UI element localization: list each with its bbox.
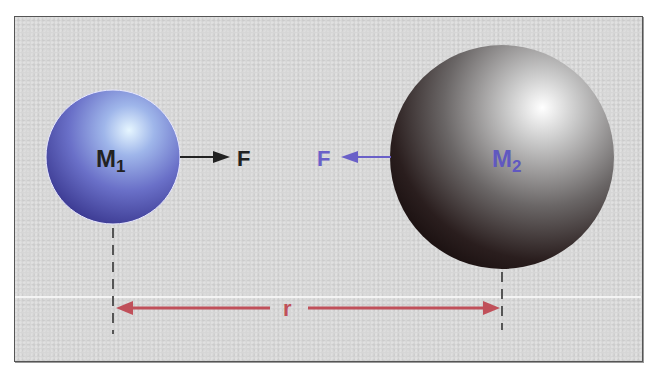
- force1-label: F: [237, 146, 250, 171]
- distance-arrowhead-right-icon: [483, 301, 500, 315]
- distance-arrowhead-left-icon: [116, 301, 133, 315]
- force1-arrowhead-icon: [213, 151, 230, 163]
- force2-label: F: [317, 146, 330, 171]
- distance-label: r: [283, 296, 292, 321]
- force2-arrowhead-icon: [341, 151, 358, 163]
- gravitation-diagram: M1 M2 F F r: [0, 0, 659, 382]
